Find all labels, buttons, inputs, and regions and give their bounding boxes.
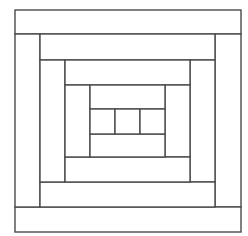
center-right-square — [140, 109, 165, 134]
outer-bottom-strip — [15, 207, 241, 232]
center-left-square — [90, 109, 115, 134]
log-cabin-quilt-diagram — [0, 0, 248, 236]
ring2-top-strip — [40, 34, 215, 60]
ring3-left-strip — [65, 85, 90, 157]
ring4-top-strip — [90, 85, 165, 109]
ring2-left-strip — [40, 60, 65, 182]
ring3-right-strip — [165, 85, 190, 157]
center-square — [115, 109, 140, 134]
ring4-bottom-strip — [90, 134, 165, 157]
ring3-top-strip — [65, 60, 190, 85]
outer-right-strip — [215, 34, 241, 207]
outer-top-strip — [15, 10, 241, 34]
ring3-bottom-strip — [65, 157, 190, 182]
ring2-right-strip — [190, 60, 215, 182]
outer-left-strip — [15, 34, 40, 207]
ring2-bottom-strip — [40, 182, 215, 207]
quilt-block-drawing — [0, 0, 248, 236]
